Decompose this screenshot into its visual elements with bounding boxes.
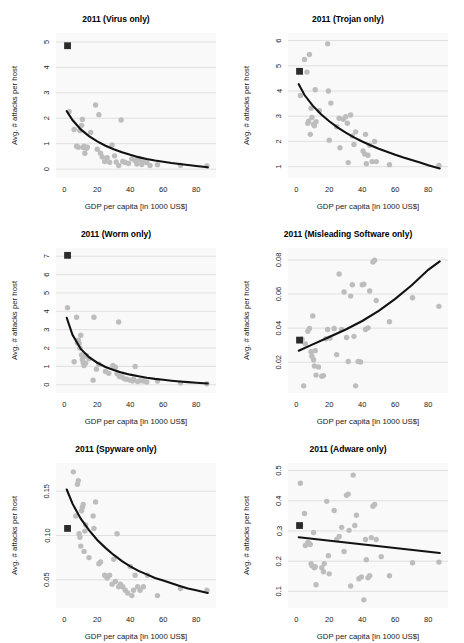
y-tick-label: 1: [43, 142, 52, 146]
data-point: [90, 377, 95, 382]
data-point: [71, 359, 76, 364]
data-point: [378, 554, 383, 559]
data-point: [346, 491, 351, 496]
data-point: [298, 93, 303, 98]
y-tick-label: 5: [43, 40, 52, 44]
data-point: [346, 160, 351, 165]
data-point: [346, 359, 351, 364]
chart-panel-virus: 2011 (Virus only)012345Avg. # attacks pe…: [0, 0, 232, 215]
data-point: [302, 57, 307, 62]
y-axis-title: Avg. # attacks per host: [242, 495, 251, 575]
data-point: [337, 145, 342, 150]
chart-panel-adware: 2011 (Adware only)0.10.20.30.40.5Avg. # …: [232, 430, 464, 643]
x-tick-label: 20: [325, 185, 333, 194]
x-tick-label: 60: [391, 615, 399, 624]
data-point: [334, 352, 339, 357]
chart-panel-worm: 2011 (Worm only)01234567Avg. # attacks p…: [0, 215, 232, 430]
data-point: [344, 335, 349, 340]
data-point: [325, 41, 330, 46]
y-axis-ticks: 01234567: [42, 254, 51, 387]
data-point: [336, 534, 341, 539]
x-tick-label: 60: [159, 185, 167, 194]
data-point: [367, 573, 372, 578]
data-point: [361, 597, 366, 602]
data-point: [307, 52, 312, 57]
data-point: [316, 364, 321, 369]
x-axis-ticks: 020406080: [62, 400, 200, 409]
data-point: [91, 314, 96, 319]
data-point: [374, 298, 379, 303]
x-axis-ticks: 020406080: [294, 615, 432, 624]
y-tick-label: 7: [43, 254, 52, 258]
x-tick-label: 0: [62, 615, 66, 624]
chart-svg-trojan: 2011 (Trojan only)123456Avg. # attacks p…: [232, 0, 464, 215]
data-point: [71, 127, 76, 132]
data-point: [374, 537, 379, 542]
data-point: [313, 582, 318, 587]
data-point: [81, 549, 86, 554]
y-tick-label: 3: [275, 114, 284, 118]
x-axis-title: GDP per capita [in 1000 US$]: [317, 632, 420, 641]
data-point: [113, 579, 118, 584]
y-tick-label: 3: [43, 91, 52, 95]
y-axis-title: Avg. # attacks per host: [10, 280, 19, 360]
y-tick-label: 4: [275, 89, 284, 93]
data-point: [90, 513, 95, 518]
panel-title: 2011 (Trojan only): [312, 14, 384, 24]
data-point: [327, 137, 332, 142]
data-point: [364, 161, 369, 166]
data-point: [81, 502, 86, 507]
data-point: [326, 553, 331, 558]
y-tick-label: 0: [43, 167, 52, 171]
y-tick-label: 1: [275, 165, 284, 169]
data-point: [78, 543, 83, 548]
data-point: [387, 162, 392, 167]
y-axis-title: Avg. # attacks per host: [242, 65, 251, 145]
data-point: [327, 571, 332, 576]
data-point: [341, 289, 346, 294]
x-tick-label: 20: [93, 400, 101, 409]
panel-title: 2011 (Misleading Software only): [284, 229, 413, 239]
data-point: [341, 549, 346, 554]
data-point: [364, 557, 369, 562]
data-point: [311, 357, 316, 362]
data-point: [112, 153, 117, 158]
data-point: [410, 295, 415, 300]
y-axis-title: Avg. # attacks per host: [10, 65, 19, 145]
x-tick-label: 40: [358, 615, 366, 624]
y-axis-ticks: 123456: [275, 38, 284, 168]
data-point: [71, 469, 76, 474]
data-point: [436, 559, 441, 564]
data-point: [345, 121, 350, 126]
y-axis-ticks: 0.050.100.15: [43, 484, 52, 587]
x-tick-label: 0: [62, 400, 66, 409]
chart-panel-spyware: 2011 (Spyware only)0.050.100.15Avg. # at…: [0, 430, 232, 643]
x-tick-label: 60: [159, 400, 167, 409]
data-point: [304, 69, 309, 74]
x-axis-title: GDP per capita [in 1000 US$]: [85, 202, 188, 211]
data-point: [126, 161, 131, 166]
data-point: [155, 593, 160, 598]
y-tick-label: 0.06: [275, 287, 284, 302]
data-point: [339, 525, 344, 530]
data-point: [302, 511, 307, 516]
data-point: [325, 327, 330, 332]
data-point: [116, 163, 121, 168]
y-tick-label: 2: [43, 346, 52, 350]
data-point: [308, 132, 313, 137]
panel-title: 2011 (Spyware only): [75, 444, 156, 454]
data-point: [98, 559, 103, 564]
y-tick-label: 0.4: [275, 496, 284, 506]
panel-title: 2011 (Adware only): [309, 444, 386, 454]
data-point: [350, 472, 355, 477]
y-axis-title: Avg. # attacks per host: [242, 280, 251, 360]
data-point: [78, 332, 83, 337]
x-tick-label: 40: [126, 185, 134, 194]
data-point: [86, 555, 91, 560]
data-point: [310, 313, 315, 318]
data-point: [361, 281, 366, 286]
data-point: [352, 523, 357, 528]
x-tick-label: 20: [325, 400, 333, 409]
x-tick-label: 60: [159, 615, 167, 624]
y-tick-label: 4: [43, 65, 52, 69]
